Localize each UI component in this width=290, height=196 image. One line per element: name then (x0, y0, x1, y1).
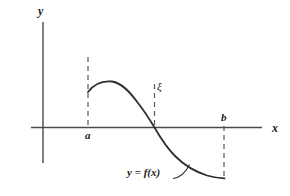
y-axis-label: y (38, 5, 43, 17)
marker-label-a: a (85, 130, 91, 141)
x-axis-label: x (272, 122, 278, 134)
function-curve (88, 81, 225, 178)
curve-label: y = f(x) (127, 167, 160, 178)
figure-container: y x a ξ b y = f(x) (0, 0, 290, 196)
marker-label-b: b (221, 112, 227, 123)
marker-label-xi: ξ (157, 81, 162, 92)
